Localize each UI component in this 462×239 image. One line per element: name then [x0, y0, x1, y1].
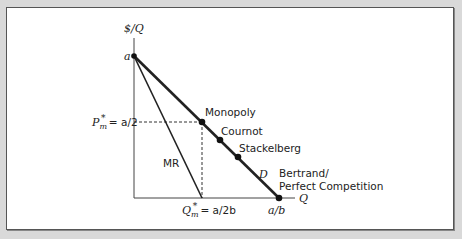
demand-label: D: [258, 168, 268, 181]
price-label: Pm* = a/2: [91, 113, 138, 131]
monopoly-point: [199, 119, 206, 126]
stackelberg-label: Stackelberg: [239, 142, 301, 154]
stackelberg-point: [235, 154, 242, 161]
marginal-revenue-line: [134, 56, 202, 198]
quantity-label: Qm* = a/2b: [182, 201, 236, 219]
cournot-point: [217, 137, 224, 144]
intercept-a-label: a: [124, 50, 131, 63]
perfect-competition-label: Perfect Competition: [279, 180, 383, 192]
bertrand-point: [276, 195, 283, 202]
x-axis-label: Q: [299, 192, 308, 205]
oligopoly-diagram: $/Q a Pm* = a/2 MR Qm* = a/2b a/b Q D Mo…: [0, 0, 462, 239]
cournot-label: Cournot: [221, 125, 263, 137]
intercept-a-point: [131, 53, 137, 59]
monopoly-label: Monopoly: [205, 106, 256, 118]
bertrand-label: Bertrand/: [279, 167, 329, 179]
intercept-ab-label: a/b: [268, 204, 285, 217]
y-axis-label: $/Q: [124, 22, 144, 35]
mr-label: MR: [163, 157, 179, 169]
